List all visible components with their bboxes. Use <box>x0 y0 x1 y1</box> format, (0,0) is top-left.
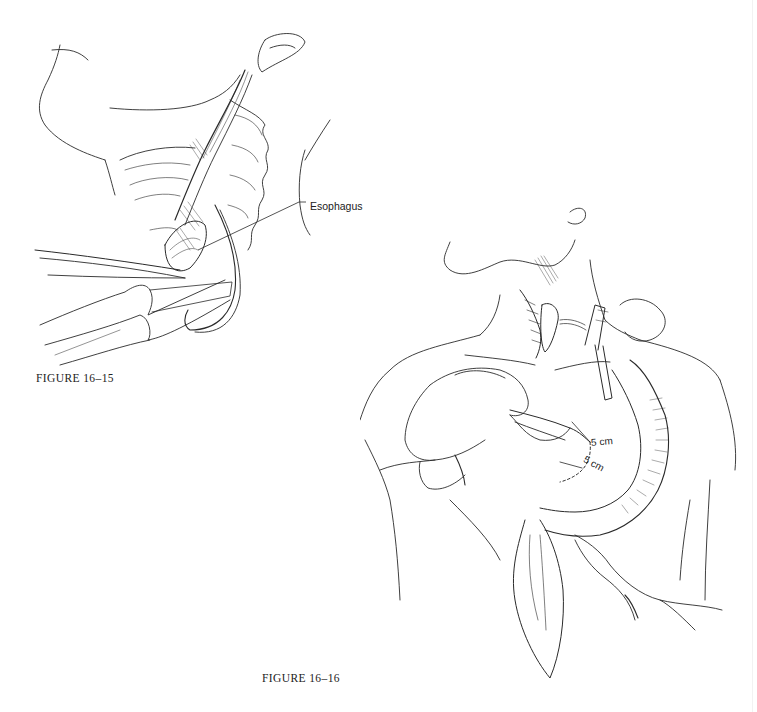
figure-16-15-caption: FIGURE 16–15 <box>36 372 114 384</box>
measurement-label-upper: 5 cm <box>591 435 614 448</box>
figure-16-15-illustration <box>0 0 360 380</box>
figure-16-16-illustration <box>360 200 750 680</box>
page-edge-line <box>752 0 753 712</box>
esophagus-leader-line <box>195 195 315 255</box>
esophagus-label: Esophagus <box>310 200 363 212</box>
figure-16-16-caption: FIGURE 16–16 <box>262 672 340 684</box>
textbook-page: Esophagus FIGURE 16–15 <box>0 0 757 712</box>
